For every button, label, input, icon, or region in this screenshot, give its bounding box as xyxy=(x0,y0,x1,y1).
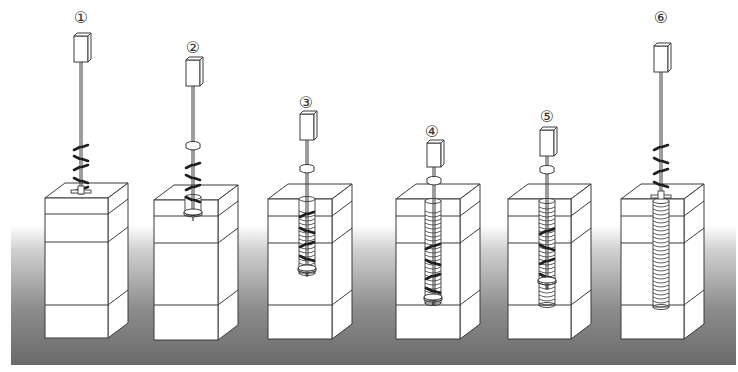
step-6: ⑥ xyxy=(621,8,704,339)
bore-top-rim xyxy=(539,199,555,204)
tip-ring-top xyxy=(424,294,442,300)
collar-body xyxy=(186,144,200,150)
motor-front xyxy=(74,36,88,62)
auger-blade-icon xyxy=(74,178,80,181)
tip-ring-top xyxy=(184,209,202,215)
collar-body xyxy=(427,179,441,185)
drill-motor xyxy=(300,111,317,140)
motor-side xyxy=(314,111,317,140)
guide-collar xyxy=(427,177,441,186)
auger-blade-icon xyxy=(654,147,660,150)
motor-side xyxy=(200,57,203,86)
auger-blade-icon xyxy=(74,156,80,159)
tip-hub xyxy=(78,186,84,194)
block-side-face xyxy=(571,184,591,339)
step-number-label: ⑥ xyxy=(654,8,668,27)
auger-blade-icon xyxy=(662,161,668,163)
motor-front xyxy=(540,130,554,156)
motor-front xyxy=(654,46,668,72)
step-number-label: ② xyxy=(186,38,200,57)
auger-blade-icon xyxy=(194,163,200,165)
step-4: ④ xyxy=(396,122,480,339)
auger-process-diagram: ①②③④⑤⑥ xyxy=(0,0,738,372)
motor-side xyxy=(441,140,444,167)
block-front-face xyxy=(45,198,108,338)
motor-front xyxy=(427,143,441,167)
step-number-label: ③ xyxy=(299,93,313,112)
auger-blade-icon xyxy=(194,178,200,180)
drill-motor xyxy=(540,127,557,156)
bore-column xyxy=(653,199,669,310)
block-front-face xyxy=(621,199,684,339)
bore-column xyxy=(299,197,315,276)
motor-side xyxy=(554,127,557,156)
step-number-label: ④ xyxy=(425,122,439,141)
guide-collar xyxy=(300,165,314,174)
guide-collar xyxy=(186,142,200,151)
collar-body xyxy=(300,167,314,173)
tip-ring-top xyxy=(538,277,556,283)
auger-blade-icon xyxy=(662,145,668,147)
step-number-label: ① xyxy=(74,8,88,27)
block-side-face xyxy=(460,184,480,339)
drill-motor xyxy=(74,33,91,62)
step-1: ① xyxy=(45,8,128,338)
diagram-canvas: ①②③④⑤⑥ xyxy=(0,0,738,372)
step-3: ③ xyxy=(268,93,352,339)
motor-front xyxy=(300,114,314,140)
auger-blade-icon xyxy=(654,171,660,174)
tip-hub xyxy=(658,191,664,199)
block-side-face xyxy=(332,184,352,339)
auger-blade-icon xyxy=(654,158,660,161)
guide-collar xyxy=(540,166,554,175)
motor-front xyxy=(186,60,200,86)
drill-motor xyxy=(654,43,671,72)
step-number-label: ⑤ xyxy=(540,107,554,126)
step-2: ② xyxy=(154,38,238,340)
auger-blade-icon xyxy=(82,159,88,161)
step-5: ⑤ xyxy=(508,107,591,339)
block-front-face xyxy=(154,200,218,340)
auger-blade-icon xyxy=(186,175,192,178)
auger-blade-icon xyxy=(82,165,88,167)
motor-side xyxy=(88,33,91,62)
block-side-face xyxy=(684,184,704,339)
collar-body xyxy=(540,168,554,174)
ground-block xyxy=(45,183,128,338)
motor-side xyxy=(668,43,671,72)
auger-blade-icon xyxy=(74,147,80,150)
auger-blade-icon xyxy=(74,167,80,170)
auger-blade-icon xyxy=(662,169,668,171)
tip-ring-top xyxy=(298,265,316,271)
drill-motor xyxy=(427,140,444,167)
bore-top-rim xyxy=(299,197,315,202)
auger-blade-icon xyxy=(82,145,88,147)
bore-column xyxy=(539,199,555,308)
drill-motor xyxy=(186,57,203,86)
auger-blade-icon xyxy=(186,165,192,168)
